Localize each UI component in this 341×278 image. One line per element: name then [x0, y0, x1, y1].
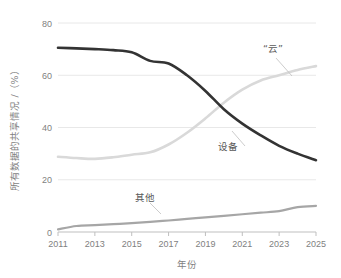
leader-line-other — [150, 203, 161, 214]
x-tick-label: 2023 — [269, 239, 289, 249]
series-label-cloud: “云” — [263, 43, 283, 54]
x-tick-label: 2013 — [85, 239, 105, 249]
y-tick-label: 20 — [42, 175, 52, 185]
x-axis-ticks: 2011 2013 2015 2017 2019 2021 2023 2025 — [48, 239, 326, 249]
series-label-other: 其他 — [135, 192, 155, 203]
x-axis-tickmarks — [58, 232, 316, 236]
x-tick-label: 2021 — [232, 239, 252, 249]
x-axis-title: 年份 — [177, 259, 197, 270]
y-tick-label: 80 — [42, 19, 52, 29]
y-tick-label: 40 — [42, 123, 52, 133]
chart-container: 80 60 40 20 0 所有数据的共享情况 /（%） 2011 2013 2… — [0, 0, 341, 278]
series-label-device: 设备 — [218, 141, 238, 152]
series-line-device — [58, 48, 316, 160]
x-tick-label: 2025 — [306, 239, 326, 249]
annotation-leaders — [150, 58, 292, 214]
y-tick-label: 0 — [47, 228, 52, 238]
line-chart: 80 60 40 20 0 所有数据的共享情况 /（%） 2011 2013 2… — [0, 0, 341, 278]
series-line-other — [58, 206, 316, 230]
y-axis-ticks: 80 60 40 20 0 — [42, 19, 52, 238]
x-tick-label: 2019 — [195, 239, 215, 249]
y-axis-title: 所有数据的共享情况 /（%） — [9, 65, 20, 190]
y-tick-label: 60 — [42, 71, 52, 81]
x-tick-label: 2015 — [122, 239, 142, 249]
x-tick-label: 2017 — [159, 239, 179, 249]
x-tick-label: 2011 — [48, 239, 67, 249]
